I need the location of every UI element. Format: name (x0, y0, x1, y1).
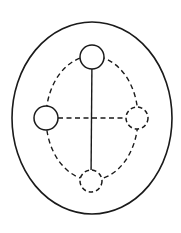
orbital-diagram (0, 0, 181, 233)
node-right-dashed-circle (126, 107, 148, 129)
edge-top-bottom-solid (91, 69, 92, 170)
diagram-canvas (0, 0, 181, 233)
node-top-solid-circle (80, 45, 104, 69)
node-bottom-dashed-circle (80, 170, 102, 192)
node-left-solid-circle (34, 106, 58, 130)
